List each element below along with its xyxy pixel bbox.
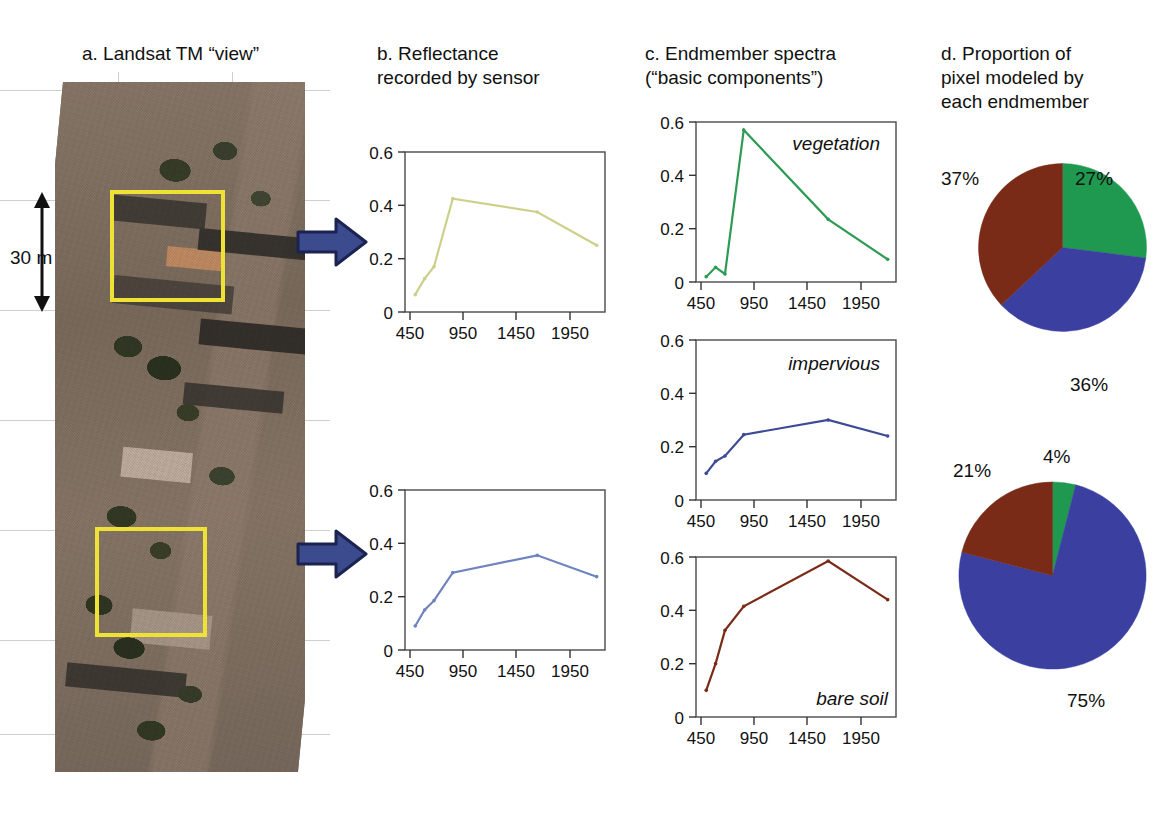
- y-tick-label: 0.2: [369, 250, 393, 269]
- arrow-to-chart-top-icon: [296, 216, 368, 268]
- pie-label-soil-top: 37%: [941, 168, 979, 190]
- x-tick-label: 1950: [842, 294, 880, 313]
- chart-vegetation-svg: 0.6 0.4 0.2 0 450 950 1450 1950 vegetati…: [648, 110, 923, 325]
- x-tick-label: 450: [396, 324, 424, 343]
- panel-c-title: c. Endmember spectra (“basic components”…: [645, 42, 935, 90]
- aerial-photo-imagery: [55, 82, 305, 772]
- chart-endmember-vegetation: 0.6 0.4 0.2 0 450 950 1450 1950 vegetati…: [648, 110, 923, 325]
- series-data-point: [742, 128, 746, 132]
- y-tick-label: 0: [384, 304, 393, 323]
- series-data-point: [595, 575, 599, 579]
- x-tick-label: 450: [687, 294, 715, 313]
- pixel-box-top[interactable]: [110, 190, 225, 302]
- series-data-point: [826, 218, 830, 222]
- y-tick-label: 0.4: [660, 385, 684, 404]
- pie-chart-pixel-1-svg: [975, 160, 1150, 335]
- series-data-point: [413, 624, 417, 628]
- chart-y-ticks: [398, 152, 405, 312]
- series-data-point: [886, 258, 890, 262]
- series-data-point: [432, 265, 436, 269]
- panel-a-title: a. Landsat TM “view”: [82, 42, 342, 66]
- y-tick-label: 0.4: [369, 197, 393, 216]
- pie-chart-pixel-1: [975, 160, 1150, 339]
- series-data-point: [451, 571, 455, 575]
- chart-x-ticks: [701, 282, 861, 290]
- series-data-point: [704, 689, 708, 693]
- y-tick-label: 0: [675, 274, 684, 293]
- pie-chart-pixel-2: [955, 478, 1150, 677]
- y-tick-label: 0.2: [660, 220, 684, 239]
- chart-y-ticks: [689, 340, 696, 500]
- aerial-photo: [55, 82, 305, 772]
- series-data-point: [742, 605, 746, 609]
- series-data-point: [723, 272, 727, 276]
- x-tick-label: 1450: [497, 324, 535, 343]
- x-tick-label: 950: [449, 662, 477, 681]
- series-data-point: [704, 472, 708, 476]
- chart-x-ticks: [701, 500, 861, 508]
- x-tick-label: 450: [687, 512, 715, 531]
- y-tick-label: 0.4: [660, 602, 684, 621]
- endmember-label-bare-soil: bare soil: [816, 688, 889, 709]
- series-data-point: [886, 598, 890, 602]
- pixel-box-bottom[interactable]: [95, 527, 207, 637]
- y-tick-label: 0: [675, 492, 684, 511]
- y-tick-label: 0.2: [369, 588, 393, 607]
- x-tick-label: 1450: [497, 662, 535, 681]
- y-tick-label: 0: [384, 642, 393, 661]
- series-data-point: [535, 210, 539, 214]
- series-data-point: [413, 293, 417, 297]
- y-tick-label: 0.4: [660, 167, 684, 186]
- chart-endmember-bare-soil: 0.6 0.4 0.2 0 450 950 1450 1950 bare soi…: [648, 545, 923, 760]
- series-data-point: [723, 629, 727, 633]
- pie-label-veg-top: 27%: [1075, 168, 1113, 190]
- chart-pixel-1-reflectance: 0.6 0.4 0.2 0 450 950 1450 1950: [360, 140, 625, 355]
- x-tick-label: 450: [396, 662, 424, 681]
- x-tick-label: 1950: [842, 729, 880, 748]
- series-data-point: [826, 418, 830, 422]
- y-tick-label: 0.6: [369, 482, 393, 501]
- chart-impervious-svg: 0.6 0.4 0.2 0 450 950 1450 1950 impervio…: [648, 328, 923, 543]
- y-tick-label: 0.6: [660, 549, 684, 568]
- series-data-point: [451, 197, 455, 201]
- series-data-point: [714, 266, 718, 270]
- series-data-point: [595, 244, 599, 248]
- panel-b-title: b. Reflectance recorded by sensor: [377, 42, 617, 90]
- pie-chart-pixel-2-svg: [955, 478, 1150, 673]
- y-tick-label: 0.4: [369, 535, 393, 554]
- pie-label-imp-top: 36%: [1070, 374, 1108, 396]
- chart-x-ticks: [410, 312, 570, 320]
- series-data-point: [714, 662, 718, 666]
- pie-label-soil-bottom: 21%: [953, 460, 991, 482]
- x-tick-label: 450: [687, 729, 715, 748]
- chart-pixel-2-reflectance: 0.6 0.4 0.2 0 450 950 1450 1950: [360, 478, 625, 693]
- aerial-photo-texture: [55, 82, 305, 772]
- series-data-point: [423, 277, 427, 281]
- panel-d-title: d. Proportion of pixel modeled by each e…: [941, 42, 1171, 114]
- endmember-label-impervious: impervious: [788, 353, 880, 374]
- x-tick-label: 950: [740, 512, 768, 531]
- series-data-point: [714, 460, 718, 464]
- y-tick-label: 0.6: [660, 332, 684, 351]
- x-tick-label: 950: [740, 729, 768, 748]
- series-data-point: [423, 608, 427, 612]
- arrow-to-chart-bottom-icon: [296, 528, 368, 580]
- scale-label: 30 m: [10, 247, 52, 269]
- chart-pixel-1-svg: 0.6 0.4 0.2 0 450 950 1450 1950: [360, 140, 625, 355]
- y-tick-label: 0.2: [660, 438, 684, 457]
- series-data-point: [723, 454, 727, 458]
- chart-y-ticks: [398, 490, 405, 650]
- chart-pixel-2-svg: 0.6 0.4 0.2 0 450 950 1450 1950: [360, 478, 625, 693]
- pie-label-veg-bottom: 4%: [1043, 446, 1070, 468]
- pie-label-imp-bottom: 75%: [1067, 690, 1105, 712]
- y-tick-label: 0.6: [660, 114, 684, 133]
- y-tick-label: 0.6: [369, 144, 393, 163]
- series-data-point: [886, 434, 890, 438]
- scale-label-text: 30 m: [10, 247, 52, 268]
- x-tick-label: 1450: [788, 294, 826, 313]
- x-tick-label: 1450: [788, 512, 826, 531]
- chart-x-ticks: [410, 650, 570, 658]
- x-tick-label: 1950: [551, 662, 589, 681]
- y-tick-label: 0: [675, 709, 684, 728]
- series-data-point: [742, 433, 746, 437]
